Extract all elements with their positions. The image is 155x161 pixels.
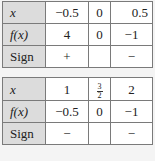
table-row-x: x 1 3 2 2 xyxy=(3,78,153,101)
row-header-fx: f(x) xyxy=(3,24,46,46)
row-header-x: x xyxy=(3,78,46,101)
table-row-x: x −0.5 0 0.5 xyxy=(3,2,153,24)
cell: − xyxy=(111,123,153,145)
cell: 0 xyxy=(89,101,111,123)
row-header-x: x xyxy=(3,2,46,24)
row-header-sign: Sign xyxy=(3,123,46,145)
table-row-sign: Sign + − xyxy=(3,46,153,68)
cell: − xyxy=(46,123,89,145)
table-row-sign: Sign − − xyxy=(3,123,153,145)
row-header-sign: Sign xyxy=(3,46,46,68)
table-row-fx: f(x) 4 0 −1 xyxy=(3,24,153,46)
cell: −1 xyxy=(111,24,153,46)
cell: 0 xyxy=(89,24,111,46)
cell: 1 xyxy=(46,78,89,101)
cell: 4 xyxy=(46,24,89,46)
fraction-denominator: 2 xyxy=(98,92,102,100)
sign-table-1: x −0.5 0 0.5 f(x) 4 0 −1 Sign + − xyxy=(2,1,153,68)
cell: 0.5 xyxy=(111,2,153,24)
table-row-fx: f(x) −0.5 0 −1 xyxy=(3,101,153,123)
cell-fraction: 3 2 xyxy=(89,78,111,101)
cell: − xyxy=(111,46,153,68)
row-header-fx: f(x) xyxy=(3,101,46,123)
cell: 2 xyxy=(111,78,153,101)
cell xyxy=(89,46,111,68)
cell: −1 xyxy=(111,101,153,123)
cell: 0 xyxy=(89,2,111,24)
cell: −0.5 xyxy=(46,2,89,24)
cell xyxy=(89,123,111,145)
fraction: 3 2 xyxy=(97,83,103,100)
cell: + xyxy=(46,46,89,68)
sign-table-2: x 1 3 2 2 f(x) −0.5 0 −1 Sign − − xyxy=(2,77,153,145)
cell: −0.5 xyxy=(46,101,89,123)
